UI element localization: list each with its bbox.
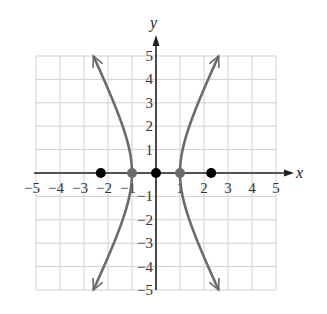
svg-text:−2: −2 (137, 212, 153, 228)
svg-text:−4: −4 (137, 259, 153, 275)
point-vertex-right (175, 168, 185, 178)
point-focus-left (96, 168, 106, 178)
svg-text:4: 4 (248, 180, 256, 196)
svg-text:1: 1 (146, 142, 154, 158)
axes (34, 35, 294, 290)
svg-text:−3: −3 (137, 235, 153, 251)
svg-text:−5: −5 (137, 282, 153, 298)
svg-text:2: 2 (146, 118, 154, 134)
svg-text:−1: −1 (137, 188, 153, 204)
svg-text:−2: −2 (96, 180, 112, 196)
svg-text:4: 4 (146, 71, 154, 87)
point-center (151, 168, 161, 178)
svg-text:−4: −4 (48, 180, 64, 196)
svg-text:2: 2 (200, 180, 208, 196)
svg-text:3: 3 (146, 95, 154, 111)
point-focus-right (206, 168, 216, 178)
svg-text:5: 5 (272, 180, 280, 196)
svg-text:−3: −3 (72, 180, 88, 196)
svg-text:5: 5 (146, 48, 154, 64)
svg-text:−1: −1 (120, 180, 136, 196)
y-axis-label: y (148, 14, 158, 32)
x-axis-label: x (295, 164, 303, 181)
point-vertex-left (127, 168, 137, 178)
svg-text:−5: −5 (24, 180, 40, 196)
hyperbola-plot: −5−4−3−2−11234554321−1−2−3−4−5 x y (0, 0, 327, 314)
svg-text:3: 3 (224, 180, 232, 196)
